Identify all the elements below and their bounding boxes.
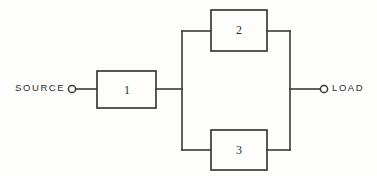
block-3-label: 3	[211, 144, 267, 156]
block-1-label: 1	[99, 84, 155, 96]
block-2-label: 2	[211, 24, 267, 36]
load-port-label: LOAD	[332, 83, 364, 93]
source-terminal-icon	[68, 85, 75, 92]
block-diagram-canvas: SOURCE LOAD 1 2 3	[0, 0, 377, 176]
load-terminal-icon	[320, 85, 327, 92]
source-port-label: SOURCE	[15, 83, 65, 93]
